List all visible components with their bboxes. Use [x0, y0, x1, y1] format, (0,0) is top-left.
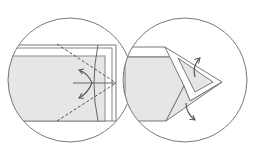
- right-detail-panel: [120, 0, 267, 152]
- left-detail-panel: [0, 0, 140, 152]
- origami-diagram: Origami folding step: inside reverse fol…: [0, 0, 267, 152]
